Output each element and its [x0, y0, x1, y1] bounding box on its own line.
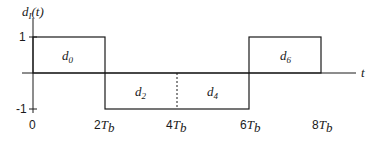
y-tick-label-neg1: -1	[16, 102, 27, 116]
x-tick-label-8tb: 8Tb	[312, 117, 333, 135]
x-tick-label-0: 0	[29, 118, 36, 132]
pulse-label-d6: d6	[280, 48, 292, 65]
waveform-diagram: dI(t) t 1 -1 d0 d2 d4 d6 0 2Tb 4Tb 6Tb 8…	[0, 0, 382, 151]
pulse-label-d4: d4	[207, 84, 219, 101]
x-axis-label: t	[361, 65, 365, 80]
pulse-label-d2: d2	[135, 84, 147, 101]
x-tick-label-2tb: 2Tb	[94, 117, 115, 135]
y-axis-label: dI(t)	[22, 4, 44, 21]
x-tick-label-4tb: 4Tb	[166, 117, 187, 135]
x-tick-label-6tb: 6Tb	[240, 117, 261, 135]
pulse-label-d0: d0	[62, 48, 74, 65]
y-tick-label-1: 1	[19, 30, 26, 44]
